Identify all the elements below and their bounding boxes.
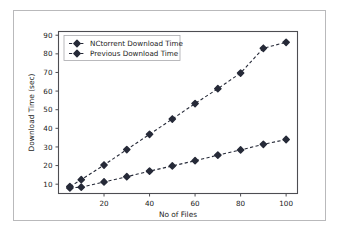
x-tick-label: 80 [236,199,246,208]
data-point [146,168,152,174]
chart-figure: 20406080100102030405060708090No of Files… [0,0,340,236]
data-point [215,86,221,92]
y-tick-label: 90 [43,31,53,40]
y-tick-label: 40 [43,124,53,133]
y-tick-label: 30 [43,143,53,152]
y-axis-title: Download Time (sec) [27,74,36,152]
data-point [260,141,266,147]
data-point [283,39,289,45]
data-point [124,146,130,152]
legend-label-2: Previous Download Time [90,49,179,58]
data-point [192,158,198,164]
y-tick-label: 60 [43,87,53,96]
y-tick-label: 70 [43,68,53,77]
y-tick-label: 10 [43,180,53,189]
x-tick-label: 100 [279,199,293,208]
data-point [192,100,198,106]
legend-label-1: NCtorrent Download Time [90,39,183,48]
data-point [169,163,175,169]
data-point [169,116,175,122]
data-point [124,174,130,180]
y-tick-label: 80 [43,49,53,58]
series-layer [67,39,289,191]
x-tick-label: 60 [190,199,200,208]
data-point [237,147,243,153]
series-2 [67,39,289,190]
data-point [78,184,84,190]
y-tick-label: 50 [43,105,53,114]
x-axis-title: No of Files [159,210,197,219]
x-tick-label: 40 [145,199,155,208]
data-point [146,131,152,137]
x-tick-label: 20 [99,199,109,208]
series-1 [67,136,289,191]
line-chart: 20406080100102030405060708090No of Files… [0,0,340,236]
chart-legend: NCtorrent Download TimePrevious Download… [64,36,183,61]
data-point [78,177,84,183]
data-point [283,136,289,142]
data-point [101,162,107,168]
y-tick-label: 20 [43,161,53,170]
data-point [101,179,107,185]
data-point [215,152,221,158]
